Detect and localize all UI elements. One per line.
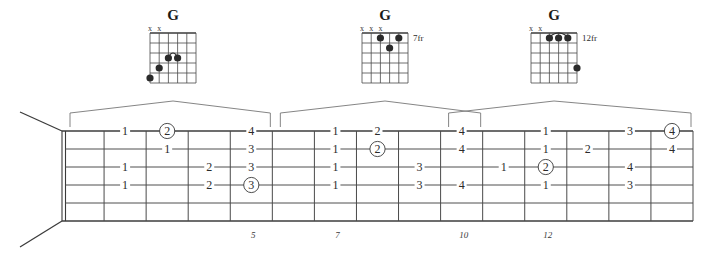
- chord-region-bracket: [280, 101, 480, 127]
- fingering-marker: 3: [625, 178, 635, 192]
- chord-region-bracket: [449, 101, 691, 127]
- fingering-marker: 2: [204, 178, 214, 192]
- figure-canvas: GxxGxxx7frGxx12fr57101211121224333111122…: [0, 0, 703, 270]
- fingering-marker: 2: [373, 124, 383, 138]
- chord-dot: [377, 34, 384, 41]
- fingering-marker: 4: [457, 178, 467, 192]
- muted-string-x-icon: x: [360, 24, 364, 33]
- fingering-number: 4: [248, 124, 254, 138]
- fingering-number: 3: [248, 160, 254, 174]
- fingering-number: 1: [543, 178, 549, 192]
- chord-dot: [546, 34, 553, 41]
- fingering-number: 3: [248, 178, 254, 192]
- fingering-marker: 3: [415, 178, 425, 192]
- muted-string-x-icon: x: [538, 24, 542, 33]
- fingering-marker: 4: [667, 142, 677, 156]
- chord-fret-position-label: 12fr: [582, 33, 597, 43]
- fingering-number: 2: [543, 160, 549, 174]
- fingering-marker: 4: [457, 124, 467, 138]
- fingering-marker: 1: [541, 178, 551, 192]
- fingering-marker: 1: [330, 124, 340, 138]
- fingering-number: 3: [627, 124, 633, 138]
- fingering-number: 1: [332, 142, 338, 156]
- fingering-number: 1: [122, 178, 128, 192]
- chord-dot: [165, 54, 172, 61]
- fret-position-marker: 12: [543, 230, 553, 240]
- muted-string-x-icon: x: [157, 24, 161, 33]
- fingerings: 111212243331111223344411121234344: [120, 123, 679, 192]
- fingering-number: 1: [122, 124, 128, 138]
- chord-dot: [573, 64, 580, 71]
- fret-position-marker: 10: [459, 230, 469, 240]
- muted-string-x-icon: x: [369, 24, 373, 33]
- chord-diagram-1: Gxx: [146, 7, 196, 83]
- fingering-number: 1: [122, 160, 128, 174]
- fingering-number: 1: [332, 160, 338, 174]
- chord-name-label-2: G: [379, 7, 391, 23]
- fingering-marker: 1: [330, 178, 340, 192]
- fingering-number: 4: [459, 142, 465, 156]
- chord-dot: [156, 64, 163, 71]
- fingering-marker: 1: [541, 142, 551, 156]
- headstock-lower-edge: [20, 221, 62, 247]
- fingering-marker: 1: [499, 160, 509, 174]
- fret-position-marker: 7: [335, 230, 340, 240]
- chord-voicing-figure: GxxGxxx7frGxx12fr57101211121224333111122…: [0, 0, 703, 270]
- fingering-number: 2: [585, 142, 591, 156]
- muted-string-x-icon: x: [529, 24, 533, 33]
- fingering-number: 4: [459, 178, 465, 192]
- muted-string-x-icon: x: [378, 24, 382, 33]
- fingering-marker: 2: [538, 159, 553, 174]
- fingering-marker: 4: [664, 123, 679, 138]
- bracket-group: [70, 101, 691, 127]
- fingering-number: 3: [248, 142, 254, 156]
- fingering-marker: 2: [204, 160, 214, 174]
- fingering-number: 2: [206, 160, 212, 174]
- fingering-marker: 4: [625, 160, 635, 174]
- chord-dot: [564, 34, 571, 41]
- chord-dot: [386, 44, 393, 51]
- chord-dot: [174, 54, 181, 61]
- fingering-marker: 1: [541, 124, 551, 138]
- chord-dot: [555, 34, 562, 41]
- chord-dot: [395, 34, 402, 41]
- fingering-marker: 3: [246, 142, 256, 156]
- fingering-number: 1: [164, 142, 170, 156]
- fingering-marker: 1: [330, 160, 340, 174]
- fingering-marker: 4: [246, 124, 256, 138]
- fingering-number: 1: [332, 178, 338, 192]
- headstock-upper-edge: [20, 112, 62, 131]
- chord-name-label-3: G: [548, 7, 560, 23]
- fingering-marker: 2: [583, 142, 593, 156]
- chord-dot: [146, 74, 153, 81]
- fingering-number: 4: [627, 160, 633, 174]
- fingering-number: 2: [164, 124, 170, 138]
- fingering-marker: 2: [370, 141, 385, 156]
- chord-name-label-1: G: [167, 7, 179, 23]
- fingering-marker: 4: [457, 142, 467, 156]
- fret-position-marker: 5: [251, 230, 256, 240]
- fingering-number: 1: [543, 124, 549, 138]
- muted-string-x-icon: x: [148, 24, 152, 33]
- fingering-marker: 1: [120, 178, 130, 192]
- fingering-marker: 2: [160, 123, 175, 138]
- fingering-marker: 3: [244, 177, 259, 192]
- fingering-number: 2: [206, 178, 212, 192]
- fingering-number: 1: [332, 124, 338, 138]
- chord-region-bracket: [70, 101, 270, 127]
- fingering-number: 4: [669, 124, 675, 138]
- fingering-marker: 3: [625, 124, 635, 138]
- fingering-number: 4: [669, 142, 675, 156]
- fingering-number: 3: [417, 178, 423, 192]
- fingering-marker: 3: [415, 160, 425, 174]
- fingering-number: 4: [459, 124, 465, 138]
- fingering-number: 2: [375, 124, 381, 138]
- chord-diagram-2: Gxxx7fr: [360, 7, 424, 83]
- chord-fret-position-label: 7fr: [413, 33, 424, 43]
- chord-diagram-3: Gxx12fr: [529, 7, 597, 83]
- fingering-number: 1: [543, 142, 549, 156]
- fingering-marker: 3: [246, 160, 256, 174]
- fingering-marker: 1: [120, 160, 130, 174]
- fingering-marker: 1: [120, 124, 130, 138]
- fingering-number: 1: [501, 160, 507, 174]
